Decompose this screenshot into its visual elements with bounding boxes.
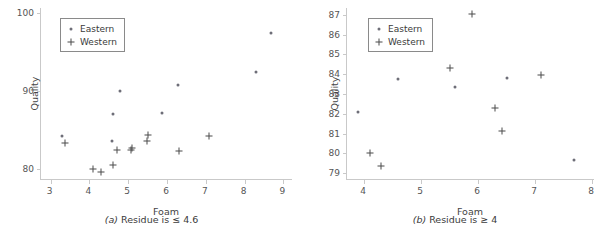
- data-point-western: [469, 10, 476, 17]
- y-tick-label: 81: [316, 129, 340, 138]
- x-tick-mark: [89, 180, 90, 184]
- x-tick-label: 9: [279, 187, 285, 196]
- figure-container: Quality Foam Eastern Western (a) Residue…: [0, 0, 607, 229]
- y-tick-mark: [343, 114, 347, 115]
- data-point-western: [537, 72, 544, 79]
- data-point-western: [144, 132, 151, 139]
- data-point-eastern: [255, 71, 258, 74]
- data-point-eastern: [505, 77, 508, 80]
- caption-body-a: Residue is ≤ 4.6: [121, 214, 198, 225]
- data-point-western: [98, 169, 105, 176]
- data-point-western: [366, 150, 373, 157]
- x-tick-mark: [245, 180, 246, 184]
- x-tick-mark: [167, 180, 168, 184]
- caption-b: (b) Residue is ≥ 4: [303, 214, 607, 225]
- data-point-eastern: [269, 32, 272, 35]
- y-tick-mark: [343, 74, 347, 75]
- x-tick-mark: [128, 180, 129, 184]
- plus-marker-icon: [374, 37, 383, 46]
- y-tick-label: 83: [316, 90, 340, 99]
- data-point-western: [143, 137, 150, 144]
- y-tick-mark: [343, 15, 347, 16]
- data-point-western: [114, 146, 121, 153]
- y-tick-label: 85: [316, 50, 340, 59]
- data-point-western: [205, 133, 212, 140]
- data-point-eastern: [357, 110, 360, 113]
- data-point-western: [128, 147, 135, 154]
- data-point-eastern: [161, 111, 164, 114]
- y-tick-label: 87: [316, 10, 340, 19]
- x-tick-label: 5: [417, 187, 423, 196]
- x-tick-mark: [51, 180, 52, 184]
- panel-a: Quality Foam Eastern Western (a) Residue…: [0, 0, 303, 229]
- y-tick-mark: [343, 134, 347, 135]
- x-tick-mark: [364, 180, 365, 184]
- data-point-eastern: [60, 135, 63, 138]
- x-tick-mark: [206, 180, 207, 184]
- x-tick-mark: [592, 180, 593, 184]
- x-tick-label: 8: [588, 187, 594, 196]
- y-tick-label: 86: [316, 30, 340, 39]
- caption-letter-b: (b): [413, 214, 426, 225]
- legend-item-eastern: Eastern: [66, 22, 117, 35]
- data-point-western: [110, 162, 117, 169]
- x-tick-mark: [535, 180, 536, 184]
- dot-marker-icon: [374, 24, 383, 33]
- legend-label-western: Western: [388, 37, 425, 47]
- legend-item-western: Western: [374, 35, 425, 48]
- x-tick-label: 4: [360, 187, 366, 196]
- y-tick-label: 90: [10, 86, 34, 95]
- y-tick-label: 100: [10, 8, 34, 17]
- y-tick-mark: [343, 54, 347, 55]
- x-tick-mark: [478, 180, 479, 184]
- y-tick-label: 80: [10, 165, 34, 174]
- y-tick-mark: [37, 13, 41, 14]
- x-tick-label: 6: [163, 187, 169, 196]
- data-point-eastern: [572, 158, 575, 161]
- y-tick-label: 82: [316, 109, 340, 118]
- data-point-eastern: [176, 84, 179, 87]
- y-tick-label: 79: [316, 169, 340, 178]
- caption-body-b: Residue is ≥ 4: [429, 214, 497, 225]
- y-tick-mark: [343, 35, 347, 36]
- legend-label-western: Western: [80, 37, 117, 47]
- x-tick-label: 3: [47, 187, 53, 196]
- y-tick-label: 80: [316, 149, 340, 158]
- legend-label-eastern: Eastern: [80, 24, 114, 34]
- data-point-eastern: [112, 113, 115, 116]
- x-tick-label: 7: [202, 187, 208, 196]
- legend-a: Eastern Western: [60, 18, 125, 52]
- data-point-eastern: [110, 139, 113, 142]
- data-point-western: [378, 162, 385, 169]
- data-point-western: [90, 166, 97, 173]
- y-tick-mark: [343, 173, 347, 174]
- x-tick-label: 5: [124, 187, 130, 196]
- data-point-western: [492, 104, 499, 111]
- data-point-western: [62, 140, 69, 147]
- x-tick-label: 7: [531, 187, 537, 196]
- data-point-western: [129, 144, 136, 151]
- legend-item-western: Western: [66, 35, 117, 48]
- data-point-eastern: [397, 78, 400, 81]
- y-tick-label: 84: [316, 70, 340, 79]
- x-tick-label: 8: [241, 187, 247, 196]
- x-tick-mark: [283, 180, 284, 184]
- data-point-western: [499, 127, 506, 134]
- caption-a: (a) Residue is ≤ 4.6: [0, 214, 303, 225]
- legend-label-eastern: Eastern: [388, 24, 422, 34]
- y-tick-mark: [37, 169, 41, 170]
- plus-marker-icon: [66, 37, 75, 46]
- data-point-western: [446, 65, 453, 72]
- caption-letter-a: (a): [105, 214, 118, 225]
- data-point-western: [175, 148, 182, 155]
- y-tick-mark: [343, 153, 347, 154]
- x-tick-mark: [421, 180, 422, 184]
- data-point-eastern: [118, 89, 121, 92]
- legend-item-eastern: Eastern: [374, 22, 425, 35]
- x-tick-label: 6: [474, 187, 480, 196]
- data-point-eastern: [454, 86, 457, 89]
- panel-b: Quality Foam Eastern Western (b) Residue…: [303, 0, 607, 229]
- dot-marker-icon: [66, 24, 75, 33]
- y-tick-mark: [343, 94, 347, 95]
- legend-b: Eastern Western: [368, 18, 433, 52]
